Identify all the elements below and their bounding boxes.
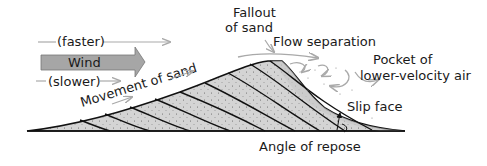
fallout-label-1: Fallout xyxy=(233,5,276,20)
faster-flow: (faster) xyxy=(38,34,170,49)
pocket-label-2: lower-velocity air xyxy=(360,68,472,83)
pocket-label-1: Pocket of xyxy=(373,52,433,67)
pocket-label-group: Pocket of lower-velocity air xyxy=(360,52,472,83)
wind-arrow: Wind xyxy=(41,47,145,77)
wind-label: Wind xyxy=(68,55,101,70)
slip-face-label: Slip face xyxy=(347,99,403,114)
dune-diagram: Wind (faster) (slower) Movement of sand … xyxy=(0,0,487,166)
slower-label: (slower) xyxy=(48,74,100,89)
angle-of-repose-label: Angle of repose xyxy=(259,139,361,154)
fallout-of-sand: Fallout of sand xyxy=(225,5,276,52)
flow-separation-label: Flow separation xyxy=(273,34,376,49)
fallout-label-2: of sand xyxy=(225,20,273,35)
faster-label: (faster) xyxy=(57,34,105,49)
